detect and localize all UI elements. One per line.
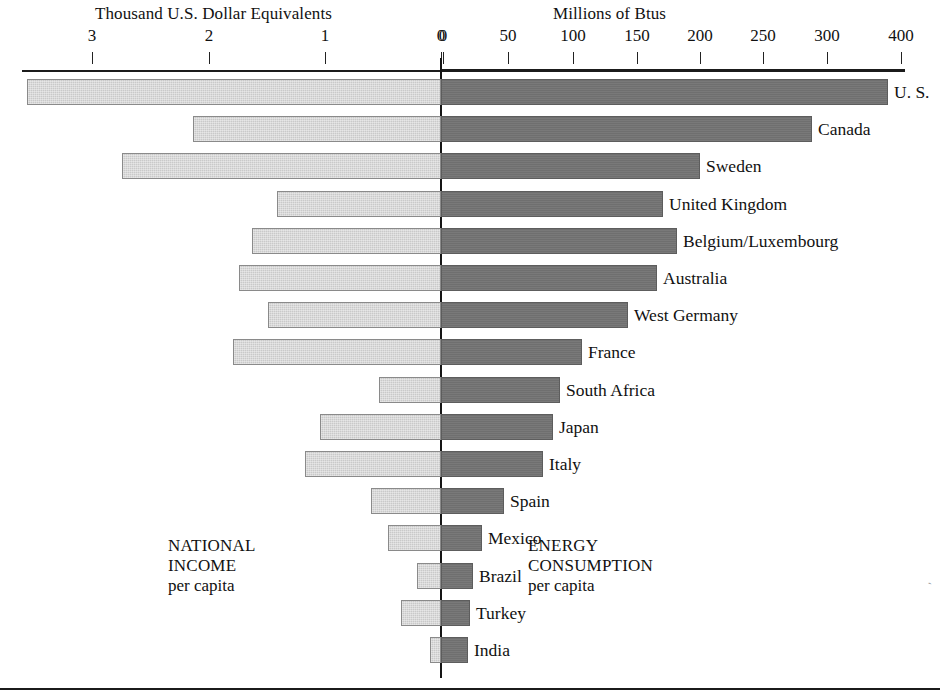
country-label: Japan	[559, 416, 599, 438]
energy-consumption-bar	[441, 339, 582, 365]
left-caption-line2: INCOME	[168, 556, 256, 576]
country-label: Sweden	[706, 155, 761, 177]
bar-row: India	[0, 637, 940, 665]
left-axis-tick-mark-1	[325, 52, 326, 64]
country-label: Spain	[510, 490, 550, 512]
country-label: West Germany	[634, 304, 738, 326]
right-caption-line3: per capita	[528, 576, 653, 596]
bar-row: Belgium/Luxembourg	[0, 228, 940, 256]
national-income-bar	[430, 637, 441, 663]
energy-consumption-bar	[441, 563, 473, 589]
energy-consumption-bar	[441, 600, 470, 626]
bar-row: France	[0, 339, 940, 367]
bar-row: Brazil	[0, 563, 940, 591]
energy-consumption-bar	[441, 488, 504, 514]
country-label: Turkey	[476, 602, 526, 624]
bar-row: Canada	[0, 116, 940, 144]
bar-row: Turkey	[0, 600, 940, 628]
left-series-caption: NATIONAL INCOME per capita	[168, 536, 256, 596]
national-income-bar	[122, 153, 441, 179]
national-income-bar	[233, 339, 441, 365]
country-label: U. S.	[894, 81, 930, 103]
left-caption-line1: NATIONAL	[168, 536, 256, 556]
national-income-bar	[401, 600, 441, 626]
right-axis-tick-mark-0	[443, 52, 444, 64]
country-label: United Kingdom	[669, 193, 787, 215]
energy-consumption-bar	[441, 228, 677, 254]
bar-row: Spain	[0, 488, 940, 516]
right-axis-tick-label-0: 0	[423, 26, 463, 46]
country-label: Brazil	[479, 565, 522, 587]
energy-consumption-bar	[441, 525, 482, 551]
energy-consumption-bar	[441, 302, 628, 328]
national-income-bar	[277, 191, 441, 217]
left-caption-line3: per capita	[168, 576, 256, 596]
bar-row: Italy	[0, 451, 940, 479]
country-label: South Africa	[566, 379, 655, 401]
right-axis-tick-label-250: 250	[743, 26, 783, 46]
right-series-caption: ENERGY CONSUMPTION per capita	[528, 536, 653, 596]
energy-consumption-bar	[441, 637, 468, 663]
country-label: France	[588, 341, 636, 363]
right-axis-tick-mark-300	[827, 52, 828, 64]
left-axis-tick-label-2: 2	[189, 26, 229, 46]
right-caption-line2: CONSUMPTION	[528, 556, 653, 576]
national-income-bar	[379, 377, 441, 403]
country-label: Belgium/Luxembourg	[683, 230, 838, 252]
bottom-rule	[0, 688, 940, 690]
bar-row: Australia	[0, 265, 940, 293]
right-axis-tick-mark-200	[700, 52, 701, 64]
country-label: India	[474, 639, 510, 661]
right-axis-tick-label-200: 200	[680, 26, 720, 46]
country-label: Canada	[818, 118, 870, 140]
right-axis-tick-label-300: 300	[807, 26, 847, 46]
bar-row: U. S.	[0, 79, 940, 107]
national-income-bar	[305, 451, 441, 477]
bar-row: Sweden	[0, 153, 940, 181]
left-axis-tick-label-3: 3	[72, 26, 112, 46]
country-label: Australia	[663, 267, 727, 289]
right-axis-rule	[441, 69, 905, 72]
right-axis-tick-mark-150	[637, 52, 638, 64]
bar-row: Japan	[0, 414, 940, 442]
national-income-bar	[27, 79, 441, 105]
bar-row: United Kingdom	[0, 191, 940, 219]
energy-consumption-bar	[441, 377, 560, 403]
right-axis-tick-label-100: 100	[553, 26, 593, 46]
bidirectional-bar-chart: Thousand U.S. Dollar Equivalents Million…	[0, 0, 940, 700]
national-income-bar	[193, 116, 441, 142]
left-axis-tick-label-1: 1	[305, 26, 345, 46]
bar-row: West Germany	[0, 302, 940, 330]
left-axis-tick-mark-2	[209, 52, 210, 64]
energy-consumption-bar	[441, 414, 553, 440]
national-income-bar	[268, 302, 441, 328]
bar-row: Mexico	[0, 525, 940, 553]
bar-row: South Africa	[0, 377, 940, 405]
national-income-bar	[320, 414, 441, 440]
energy-consumption-bar	[441, 116, 812, 142]
left-axis-rule	[22, 70, 441, 72]
energy-consumption-bar	[441, 451, 543, 477]
right-axis-tick-mark-100	[573, 52, 574, 64]
right-caption-line1: ENERGY	[528, 536, 653, 556]
national-income-bar	[388, 525, 441, 551]
right-axis-tick-mark-250	[763, 52, 764, 64]
left-axis-tick-mark-3	[92, 52, 93, 64]
right-axis-tick-label-400: 400	[881, 26, 921, 46]
right-axis-tick-mark-400	[901, 52, 902, 64]
energy-consumption-bar	[441, 153, 700, 179]
national-income-bar	[371, 488, 441, 514]
national-income-bar	[417, 563, 441, 589]
energy-consumption-bar	[441, 265, 657, 291]
national-income-bar	[239, 265, 441, 291]
country-label: Italy	[549, 453, 581, 475]
right-axis-tick-label-50: 50	[488, 26, 528, 46]
national-income-bar	[252, 228, 441, 254]
energy-consumption-bar	[441, 79, 888, 105]
right-axis-tick-label-150: 150	[617, 26, 657, 46]
energy-consumption-bar	[441, 191, 663, 217]
right-axis-tick-mark-50	[508, 52, 509, 64]
right-axis-title: Millions of Btus	[553, 4, 666, 24]
left-axis-title: Thousand U.S. Dollar Equivalents	[95, 4, 332, 24]
